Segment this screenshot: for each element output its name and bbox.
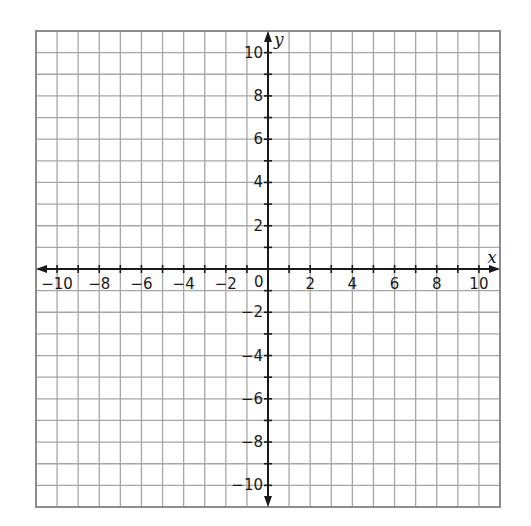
y-tick-label: −2 xyxy=(241,303,263,321)
coordinate-plane: −10−8−6−4−2246810108642−2−4−6−8−10 x y 0 xyxy=(0,0,531,526)
y-tick-label: 4 xyxy=(253,173,263,191)
y-axis-arrow-down-icon xyxy=(264,496,272,507)
axes xyxy=(36,31,500,507)
y-tick-label: 6 xyxy=(253,130,263,148)
y-tick-label: 8 xyxy=(253,87,263,105)
x-tick-label: 4 xyxy=(348,275,358,293)
y-tick-label: −10 xyxy=(231,476,263,494)
y-tick-label: −8 xyxy=(241,433,263,451)
x-axis-arrow-left-icon xyxy=(36,265,47,273)
y-axis-label: y xyxy=(273,29,284,49)
y-axis-arrow-up-icon xyxy=(264,31,272,42)
x-tick-label: 10 xyxy=(469,275,488,293)
x-tick-label: −6 xyxy=(130,275,152,293)
x-tick-label: −10 xyxy=(41,275,73,293)
x-tick-label: 8 xyxy=(432,275,442,293)
y-tick-label: 10 xyxy=(244,44,263,62)
x-tick-label: 6 xyxy=(390,275,400,293)
x-tick-label: −4 xyxy=(173,275,195,293)
y-tick-label: −4 xyxy=(241,347,263,365)
x-axis-label: x xyxy=(487,247,497,267)
x-tick-label: 2 xyxy=(305,275,315,293)
y-tick-label: 2 xyxy=(253,217,263,235)
y-tick-label: −6 xyxy=(241,390,263,408)
x-tick-label: −8 xyxy=(88,275,110,293)
origin-label: 0 xyxy=(254,273,264,291)
x-tick-label: −2 xyxy=(215,275,237,293)
